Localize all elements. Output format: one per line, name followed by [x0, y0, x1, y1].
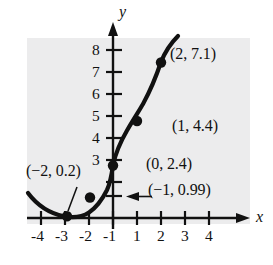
y-tick-label-3: 3 — [92, 152, 100, 168]
x-tick-label-1: 1 — [133, 228, 141, 244]
x-tick-label-minus2: -2 — [79, 228, 92, 244]
data-point-zero — [108, 160, 118, 170]
point-label-1: (1, 4.4) — [172, 118, 218, 134]
y-tick-label-7: 7 — [92, 64, 100, 80]
y-tick-label-5: 5 — [92, 108, 100, 124]
x-tick-label-3: 3 — [181, 228, 189, 244]
graph-figure: y x -4 -3 -2 -1 1 2 3 4 8 7 6 5 4 3 (2, … — [0, 0, 273, 265]
data-point-neg2 — [62, 211, 72, 221]
y-tick-label-4: 4 — [92, 130, 100, 146]
data-point-neg1 — [85, 192, 95, 202]
y-axis-label: y — [119, 4, 126, 20]
data-point-two — [156, 57, 166, 67]
x-tick-label-minus4: -4 — [31, 228, 44, 244]
x-axis-label: x — [256, 209, 263, 225]
data-point-one — [132, 116, 142, 126]
y-tick-label-6: 6 — [92, 86, 100, 102]
point-label-2: (2, 7.1) — [170, 46, 216, 62]
point-label-minus2: (−2, 0.2) — [26, 163, 81, 179]
x-tick-label-2: 2 — [157, 228, 165, 244]
point-label-0: (0, 2.4) — [146, 156, 192, 172]
x-tick-label-4: 4 — [205, 228, 213, 244]
coordinate-plane — [0, 0, 273, 265]
x-tick-label-minus3: -3 — [55, 228, 68, 244]
y-tick-label-8: 8 — [92, 42, 100, 58]
x-tick-label-minus1: -1 — [103, 228, 116, 244]
point-label-minus1: (−1, 0.99) — [148, 182, 211, 198]
